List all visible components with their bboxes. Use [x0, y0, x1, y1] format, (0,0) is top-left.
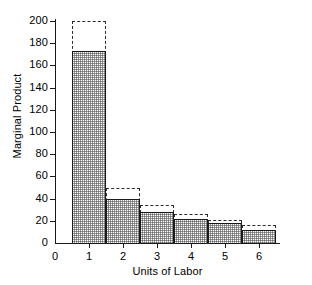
y-tick-mark — [50, 43, 55, 44]
y-tick-mark — [50, 21, 55, 22]
plot-area: 020406080100120140160180200 0123456 — [0, 0, 312, 285]
x-axis-title: Units of Labor — [55, 265, 280, 277]
x-tick-label: 0 — [43, 250, 67, 262]
y-tick-label: 100 — [14, 126, 48, 137]
x-tick-mark — [89, 243, 90, 248]
x-tick-label: 6 — [247, 250, 271, 262]
y-tick-mark — [50, 221, 55, 222]
y-tick-mark — [50, 154, 55, 155]
x-tick-mark — [157, 243, 158, 248]
x-tick-mark — [259, 243, 260, 248]
x-tick-label: 5 — [213, 250, 237, 262]
x-tick-label: 2 — [111, 250, 135, 262]
actual-bar — [106, 199, 140, 243]
actual-bar — [242, 230, 276, 243]
y-tick-label: 160 — [14, 59, 48, 70]
y-axis-line — [55, 19, 56, 244]
y-tick-mark — [50, 88, 55, 89]
marginal-product-bar-chart: Marginal Product 02040608010012014016018… — [0, 0, 312, 285]
x-tick-label: 1 — [77, 250, 101, 262]
actual-bar — [140, 212, 174, 243]
y-tick-mark — [50, 199, 55, 200]
y-tick-label: 180 — [14, 37, 48, 48]
x-tick-label: 3 — [145, 250, 169, 262]
x-tick-mark — [123, 243, 124, 248]
actual-bar — [174, 219, 208, 243]
y-tick-mark — [50, 132, 55, 133]
y-tick-label: 140 — [14, 82, 48, 93]
y-tick-label: 40 — [14, 193, 48, 204]
y-tick-mark — [50, 65, 55, 66]
y-tick-label: 20 — [14, 215, 48, 226]
y-tick-label: 0 — [14, 237, 48, 248]
actual-bar — [72, 51, 106, 243]
x-tick-mark — [191, 243, 192, 248]
x-tick-mark — [225, 243, 226, 248]
y-tick-mark — [50, 110, 55, 111]
y-tick-label: 120 — [14, 104, 48, 115]
y-tick-mark — [50, 176, 55, 177]
actual-bar — [208, 223, 242, 243]
y-tick-label: 80 — [14, 148, 48, 159]
x-tick-label: 4 — [179, 250, 203, 262]
y-tick-label: 200 — [14, 15, 48, 26]
y-tick-label: 60 — [14, 170, 48, 181]
